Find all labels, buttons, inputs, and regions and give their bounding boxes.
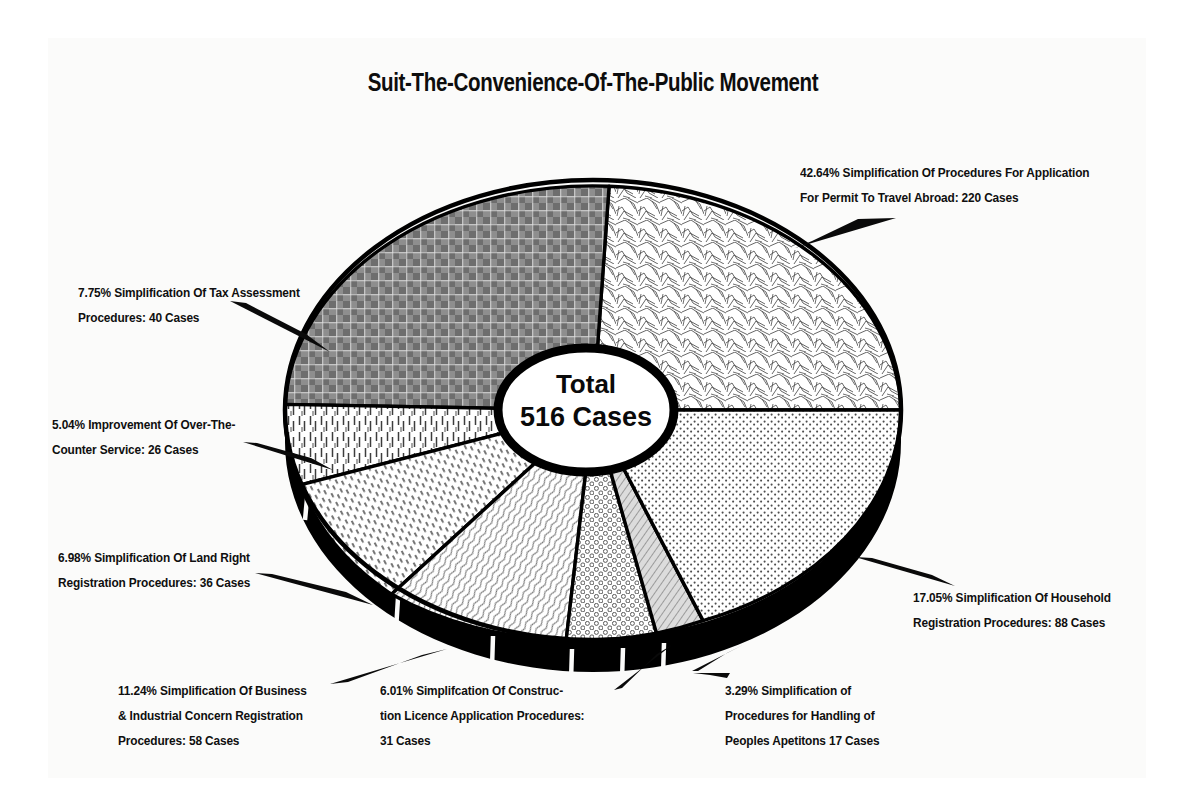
- callout-land-line2: Registration Procedures: 36 Cases: [58, 570, 250, 595]
- callout-counter-line1: 5.04% Improvement Of Over-The-: [52, 412, 235, 437]
- callout-petitions-line3: Peoples Apetitons 17 Cases: [725, 728, 879, 753]
- callout-land-line1: 6.98% Simplification Of Land Right: [58, 545, 250, 570]
- callout-tax-line1: 7.75% Simplification Of Tax Assessment: [78, 280, 300, 305]
- pie-center-total-value: 516 Cases: [501, 401, 671, 434]
- callout-construction-line2: tion Licence Application Procedures:: [380, 703, 584, 728]
- callout-tax: 7.75% Simplification Of Tax Assessment P…: [78, 280, 300, 330]
- pie-center-total-word: Total: [501, 368, 671, 401]
- callout-petitions-line1: 3.29% Simplification of: [725, 678, 879, 703]
- callout-household-line1: 17.05% Simplification Of Household: [913, 585, 1111, 610]
- callout-business-line1: 11.24% Simplification Of Business: [118, 678, 307, 703]
- callout-travel: 42.64% Simplification Of Procedures For …: [800, 160, 1089, 210]
- callout-construction: 6.01% Simplifcation Of Construc- tion Li…: [380, 678, 584, 753]
- callout-household: 17.05% Simplification Of Household Regis…: [913, 585, 1111, 635]
- chart-page: Suit-The-Convenience-Of-The-Public Movem…: [0, 0, 1186, 809]
- callout-land: 6.98% Simplification Of Land Right Regis…: [58, 545, 250, 595]
- callout-construction-line3: 31 Cases: [380, 728, 584, 753]
- callout-business: 11.24% Simplification Of Business & Indu…: [118, 678, 307, 753]
- callout-petitions-line2: Procedures for Handling of: [725, 703, 879, 728]
- callout-construction-line1: 6.01% Simplifcation Of Construc-: [380, 678, 584, 703]
- callout-travel-line2: For Permit To Travel Abroad: 220 Cases: [800, 185, 1089, 210]
- leader-household: [855, 557, 955, 586]
- callout-business-line3: Procedures: 58 Cases: [118, 728, 307, 753]
- callout-household-line2: Registration Procedures: 88 Cases: [913, 610, 1111, 635]
- callout-tax-line2: Procedures: 40 Cases: [78, 305, 300, 330]
- leader-travel: [795, 218, 896, 248]
- callout-travel-line1: 42.64% Simplification Of Procedures For …: [800, 160, 1089, 185]
- callout-petitions: 3.29% Simplification of Procedures for H…: [725, 678, 879, 753]
- callout-business-line2: & Industrial Concern Registration: [118, 703, 307, 728]
- callout-counter-line2: Counter Service: 26 Cases: [52, 437, 235, 462]
- pie-center-label: Total 516 Cases: [501, 368, 671, 434]
- callout-counter: 5.04% Improvement Of Over-The- Counter S…: [52, 412, 235, 462]
